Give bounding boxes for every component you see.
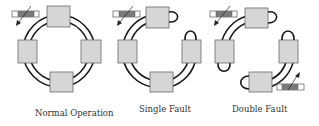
node-left <box>215 40 234 63</box>
loopback-left-node-bottom <box>218 63 230 71</box>
node-top <box>245 8 268 28</box>
loopback-top-node-right <box>268 12 277 23</box>
label-double-fault: Double Fault <box>232 104 287 114</box>
node-bottom <box>249 72 272 92</box>
node-right <box>81 40 101 63</box>
loopback-right-node-top <box>185 31 196 40</box>
node-right <box>279 40 298 63</box>
node-top <box>146 7 169 28</box>
node-left <box>118 40 137 63</box>
loopback-top-node-right <box>169 12 178 22</box>
node-left <box>18 40 37 63</box>
node-top <box>47 6 70 27</box>
panel-double-fault <box>210 6 304 92</box>
node-bottom <box>150 72 173 92</box>
loopback-right-node-top <box>282 31 294 40</box>
panel-single-fault <box>113 6 201 92</box>
fiber-cable-icon <box>12 11 39 17</box>
label-normal-operation: Normal Operation <box>35 108 113 118</box>
loopback-bottom-node-left <box>241 76 249 89</box>
node-right <box>182 40 201 63</box>
panel-normal-operation <box>12 6 101 92</box>
node-bottom <box>50 72 73 92</box>
fiber-cable-icon <box>277 84 304 90</box>
label-single-fault: Single Fault <box>139 104 191 114</box>
